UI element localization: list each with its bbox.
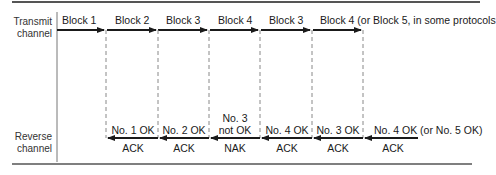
reverse-type-3: NAK xyxy=(224,142,246,154)
block-label-5: Block 3 xyxy=(269,14,303,26)
reverse-type-1: ACK xyxy=(122,142,144,154)
reverse-type-6: ACK xyxy=(382,142,404,154)
transmit-label-line1: Transmit xyxy=(0,16,52,28)
block-label-2: Block 2 xyxy=(115,14,149,26)
block-label-6: Block 4 (or Block 5, in some protocols xyxy=(320,14,496,26)
reverse-type-2: ACK xyxy=(173,142,195,154)
reverse-label-line2: channel xyxy=(0,143,52,155)
transmit-label-line2: channel xyxy=(0,28,52,40)
block-label-4: Block 4 xyxy=(218,14,252,26)
reverse-type-5: ACK xyxy=(327,142,349,154)
reverse-label-line1: Reverse xyxy=(0,131,52,143)
reverse-channel-label: Reverse channel xyxy=(0,131,52,155)
reverse-status-3-line2: not OK xyxy=(219,124,252,136)
reverse-status-3: No. 3 not OK xyxy=(219,112,252,136)
reverse-status-6: No. 4 OK (or No. 5 OK) xyxy=(374,124,483,136)
reverse-status-2: No. 2 OK xyxy=(162,124,205,136)
reverse-status-3-line1: No. 3 xyxy=(219,112,252,124)
transmit-channel-label: Transmit channel xyxy=(0,16,52,40)
reverse-status-5: No. 3 OK xyxy=(316,124,359,136)
reverse-status-4: No. 4 OK xyxy=(265,124,308,136)
reverse-type-4: ACK xyxy=(276,142,298,154)
reverse-status-1: No. 1 OK xyxy=(111,124,154,136)
block-label-3: Block 3 xyxy=(166,14,200,26)
block-label-1: Block 1 xyxy=(62,14,96,26)
